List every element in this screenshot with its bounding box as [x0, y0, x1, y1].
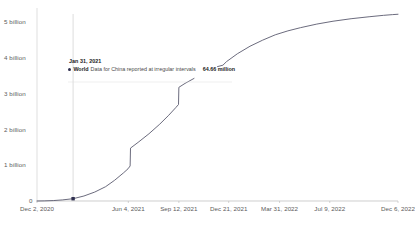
- series-group: [37, 14, 398, 201]
- x-axis-tick-label: Dec 2, 2020: [20, 205, 54, 212]
- hover-marker-group: [71, 197, 74, 200]
- x-axis-tick-label: Mar 31, 2022: [261, 205, 298, 212]
- y-axis-tick-label: 0: [29, 197, 33, 204]
- series-line-world-segment-1: [37, 78, 194, 201]
- series-line-world-segment-2: [218, 14, 399, 66]
- x-axis-group: [37, 201, 398, 203]
- y-axis-tick-label: 1 billion: [4, 161, 26, 168]
- y-axis-tick-label: 2 billion: [4, 126, 26, 133]
- y-axis-tick-label: 3 billion: [4, 90, 26, 97]
- x-axis-tick-label: Dec 6, 2022: [381, 205, 415, 212]
- x-axis-tick-label: Jul 9, 2022: [314, 205, 345, 212]
- y-axis-tick-label: 5 billion: [4, 18, 26, 25]
- y-axis-tick-label: 4 billion: [4, 54, 26, 61]
- x-axis-tick-label: Dec 21, 2021: [210, 205, 247, 212]
- hover-point-marker: [71, 197, 74, 200]
- x-axis-tick-label: Jun 4, 2021: [112, 205, 145, 212]
- x-axis-tick-label: Sep 12, 2021: [160, 205, 197, 212]
